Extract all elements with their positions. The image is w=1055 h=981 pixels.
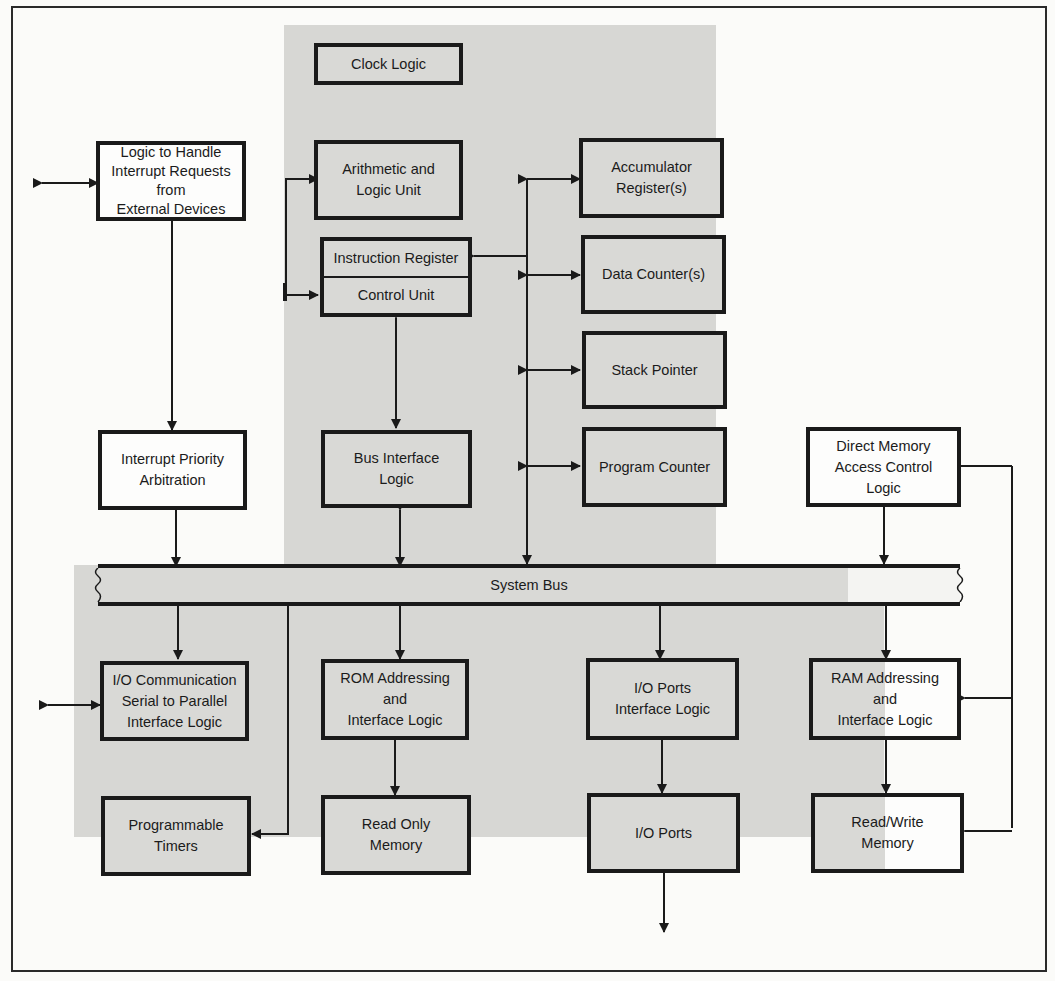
alu-label-2: Logic Unit	[356, 180, 420, 201]
stack-pointer-label: Stack Pointer	[611, 360, 697, 381]
bus-interface-block: Bus Interface Logic	[321, 430, 472, 508]
interrupt-priority-label-2: Arbitration	[139, 470, 205, 491]
rom-addressing-label-2: and	[383, 689, 407, 710]
alu-label-1: Arithmetic and	[342, 159, 435, 180]
interrupt-logic-label-3: from	[157, 181, 186, 200]
dma-label-2: Access Control	[835, 457, 933, 478]
bus-break-left-icon	[92, 568, 104, 602]
clock-logic-block: Clock Logic	[314, 43, 463, 85]
io-communication-block: I/O Communication Serial to Parallel Int…	[100, 661, 249, 741]
interrupt-logic-label-2: Interrupt Requests	[111, 162, 230, 181]
read-write-memory-label-2: Memory	[861, 833, 913, 854]
interrupt-priority-label-1: Interrupt Priority	[121, 449, 224, 470]
accumulator-block: Accumulator Register(s)	[579, 138, 724, 218]
io-ports-block: I/O Ports	[587, 793, 740, 873]
io-ports-interface-block: I/O Ports Interface Logic	[586, 658, 739, 740]
rom-addressing-label-3: Interface Logic	[347, 710, 442, 731]
accumulator-label-1: Accumulator	[611, 157, 692, 178]
dma-block: Direct Memory Access Control Logic	[806, 427, 961, 507]
io-communication-label-1: I/O Communication	[112, 670, 236, 691]
interrupt-logic-block: Logic to Handle Interrupt Requests from …	[96, 141, 246, 221]
instruction-register-section: Instruction Register	[324, 241, 468, 278]
interrupt-logic-label-1: Logic to Handle	[121, 143, 222, 162]
rom-addressing-block: ROM Addressing and Interface Logic	[321, 659, 469, 740]
bus-break-right-icon	[954, 568, 966, 602]
clock-logic-label: Clock Logic	[351, 54, 426, 75]
io-ports-interface-label-2: Interface Logic	[615, 699, 710, 720]
rom-addressing-label-1: ROM Addressing	[340, 668, 450, 689]
program-counter-label: Program Counter	[599, 457, 710, 478]
interrupt-priority-block: Interrupt Priority Arbitration	[98, 430, 247, 510]
io-communication-label-2: Serial to Parallel	[122, 691, 228, 712]
data-counters-block: Data Counter(s)	[581, 235, 726, 314]
ram-addressing-label-3: Interface Logic	[837, 710, 932, 731]
stack-pointer-block: Stack Pointer	[582, 331, 727, 409]
control-unit-label: Control Unit	[358, 285, 435, 306]
bus-interface-label-1: Bus Interface	[354, 448, 439, 469]
control-unit-section: Control Unit	[324, 278, 468, 313]
ram-addressing-label-2: and	[873, 689, 897, 710]
programmable-timers-label-1: Programmable	[128, 815, 223, 836]
read-only-memory-label-1: Read Only	[362, 814, 431, 835]
system-bus: System Bus	[98, 564, 960, 606]
ram-addressing-block: RAM Addressing and Interface Logic	[809, 658, 961, 740]
bus-interface-label-2: Logic	[379, 469, 414, 490]
instruction-control-block: Instruction Register Control Unit	[320, 237, 472, 317]
io-communication-label-3: Interface Logic	[127, 712, 222, 733]
dma-label-3: Logic	[866, 478, 901, 499]
programmable-timers-label-2: Timers	[154, 836, 198, 857]
program-counter-block: Program Counter	[582, 427, 727, 507]
io-ports-interface-label-1: I/O Ports	[634, 678, 691, 699]
dma-label-1: Direct Memory	[836, 436, 930, 457]
read-only-memory-block: Read Only Memory	[321, 795, 471, 875]
programmable-timers-block: Programmable Timers	[101, 796, 251, 876]
read-only-memory-label-2: Memory	[370, 835, 422, 856]
ram-addressing-label-1: RAM Addressing	[831, 668, 939, 689]
alu-block: Arithmetic and Logic Unit	[314, 140, 463, 220]
io-ports-label: I/O Ports	[635, 823, 692, 844]
system-bus-label: System Bus	[98, 568, 960, 602]
data-counters-label: Data Counter(s)	[602, 264, 705, 285]
interrupt-logic-label-4: External Devices	[117, 200, 226, 219]
read-write-memory-label-1: Read/Write	[851, 812, 923, 833]
read-write-memory-block: Read/Write Memory	[811, 793, 964, 873]
accumulator-label-2: Register(s)	[616, 178, 687, 199]
instruction-register-label: Instruction Register	[334, 248, 459, 269]
